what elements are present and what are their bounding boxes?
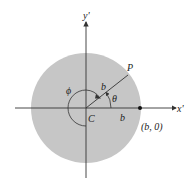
radius-segment-label: b bbox=[101, 81, 106, 92]
point-p-label: P bbox=[126, 62, 133, 73]
radius-axis-label: b bbox=[120, 112, 125, 123]
point-b-0 bbox=[138, 106, 142, 110]
x-axis-label: x' bbox=[176, 103, 184, 114]
disk-diagram: y' x' P C b b θ ϕ (b, 0) bbox=[0, 0, 195, 191]
phi-label: ϕ bbox=[66, 85, 71, 96]
y-axis-label: y' bbox=[82, 10, 90, 21]
point-coordinates-label: (b, 0) bbox=[141, 121, 163, 133]
center-c-label: C bbox=[88, 113, 95, 124]
theta-label: θ bbox=[112, 93, 117, 104]
